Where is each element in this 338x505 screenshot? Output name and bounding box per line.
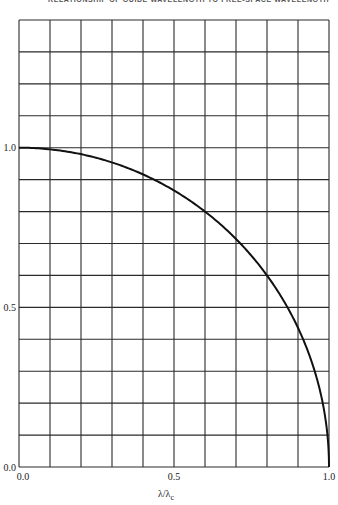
- y-tick-label: 0.0: [4, 462, 17, 473]
- x-tick-label: 1.0: [323, 471, 336, 482]
- y-axis-ticks: 0.00.51.0: [4, 142, 17, 472]
- chart: 0.00.51.0 0.00.51.0 λ/λc: [0, 0, 338, 505]
- x-tick-label: 0.0: [17, 471, 30, 482]
- chart-grid: [19, 20, 329, 467]
- x-tick-label: 0.5: [168, 471, 181, 482]
- y-tick-label: 0.5: [4, 302, 17, 313]
- y-tick-label: 1.0: [4, 142, 17, 153]
- x-axis-ticks: 0.00.51.0: [17, 471, 336, 482]
- x-axis-label: λ/λc: [158, 488, 174, 502]
